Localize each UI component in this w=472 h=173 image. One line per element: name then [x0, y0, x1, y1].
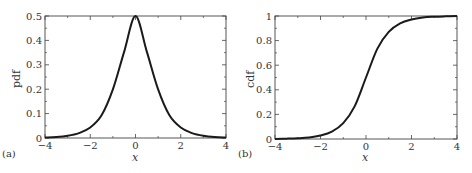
y-tick-label: 0.6	[256, 60, 272, 71]
cdf-curve	[275, 16, 457, 139]
x-tick-label: 2	[408, 141, 414, 152]
panel-b: −4−202400.20.40.60.81	[256, 11, 460, 153]
panel-a: −4−202400.10.20.30.40.5	[26, 11, 229, 152]
x-tick-label: 2	[178, 140, 184, 151]
y-tick-label: 0.4	[256, 84, 272, 95]
y-tick-label: 0	[36, 133, 42, 144]
figure: −4−202400.10.20.30.40.5−4−202400.20.40.6…	[0, 0, 472, 173]
y-tick-label: 1	[266, 11, 272, 22]
x-tick-label: 4	[223, 140, 229, 151]
pdf-curve	[45, 16, 226, 138]
x-tick-label: −2	[313, 141, 328, 152]
y-tick-label: 0.1	[26, 108, 42, 119]
y-tick-label: 0	[266, 134, 272, 145]
x-tick-label: −2	[83, 140, 98, 151]
x-tick-label: 0	[132, 140, 138, 151]
y-tick-label: 0.2	[26, 84, 42, 95]
plot-frame	[45, 16, 226, 138]
x-tick-label: 0	[363, 141, 369, 152]
x-tick-label: 4	[454, 141, 460, 152]
y-tick-label: 0.2	[256, 109, 272, 120]
y-tick-label: 0.8	[256, 35, 272, 46]
y-tick-label: 0.4	[26, 35, 42, 46]
y-tick-label: 0.3	[26, 59, 42, 70]
y-tick-label: 0.5	[26, 11, 42, 22]
